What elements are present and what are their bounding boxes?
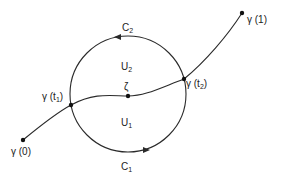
c2-arrow-icon	[114, 34, 121, 40]
contour-diagram: γ (0) γ (1) γ (t1) γ (t2) ζ U2 U1 C2 C1	[0, 0, 282, 181]
point-gamma0	[21, 138, 25, 142]
label-zeta: ζ	[124, 81, 129, 93]
label-gamma-t1: γ (t1)	[42, 91, 63, 103]
label-gamma0: γ (0)	[11, 146, 31, 157]
label-gamma1: γ (1)	[247, 14, 267, 25]
point-gamma1	[240, 11, 244, 15]
point-zeta	[126, 94, 130, 98]
label-c2: C2	[122, 22, 133, 34]
label-u1: U1	[121, 117, 132, 129]
label-gamma-t2: γ (t2)	[186, 78, 207, 90]
label-u2: U2	[121, 61, 132, 73]
point-gamma-t1	[69, 103, 73, 107]
label-c1: C1	[121, 161, 132, 173]
